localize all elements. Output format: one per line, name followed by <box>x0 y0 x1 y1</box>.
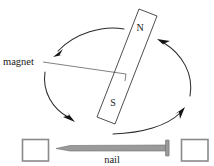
magnet-nail-diagram: N S magnet nail <box>0 0 214 166</box>
support-box-right <box>182 140 209 162</box>
arrow-top-right <box>157 39 191 96</box>
magnet-label: magnet <box>3 56 34 67</box>
arrow-bottom-left <box>45 72 75 122</box>
support-box-left <box>23 140 49 162</box>
arrow-bottom-right <box>113 107 185 134</box>
south-pole-label: S <box>110 97 116 108</box>
bar-magnet: N S <box>97 9 157 124</box>
north-pole-label: N <box>136 22 143 33</box>
nail-label: nail <box>104 154 120 165</box>
figure-canvas: N S magnet nail <box>0 0 214 166</box>
arrow-top-left <box>53 28 124 57</box>
